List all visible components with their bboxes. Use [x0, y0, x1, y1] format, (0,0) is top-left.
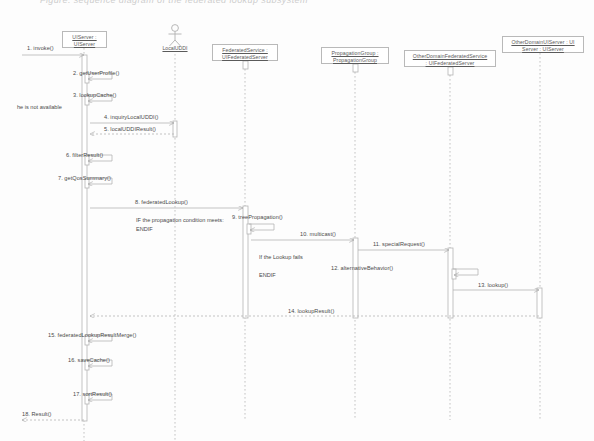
message-label-3[interactable]: 3. lookupCache()	[73, 92, 116, 99]
message-12	[453, 269, 478, 275]
message-arrows-group	[22, 55, 539, 420]
activation-bar-act-otheruiserver	[537, 288, 542, 318]
actor-label-localuddi[interactable]: LocalUDDI	[152, 45, 198, 52]
lifeline-header-line2-propagationgroup: PropagationGroup	[324, 57, 386, 64]
message-self-arrow-12	[453, 269, 478, 275]
lifeline-header-federatedservice[interactable]: FederatedService :UIFederatedServer	[212, 44, 278, 61]
diagram-vector-layer	[0, 0, 594, 441]
lifeline-lines-group	[84, 48, 540, 441]
message-label-16[interactable]: 16. saveCache()	[68, 357, 110, 364]
note-lookup-endif: ENDIF	[259, 271, 276, 279]
activation-bar-act-federated-self	[247, 224, 251, 234]
activation-bars-group	[82, 55, 542, 421]
message-label-6[interactable]: 6. filterResult()	[66, 152, 103, 159]
message-label-12[interactable]: 12. alternativeBehavior()	[331, 265, 393, 272]
message-label-1[interactable]: 1. invoke()	[27, 45, 54, 52]
message-label-7[interactable]: 7. getQosSummary()	[58, 175, 111, 182]
actor-head-icon	[172, 25, 179, 32]
message-label-8[interactable]: 8. federatedLookup()	[135, 199, 188, 206]
lifeline-header-line1-uiserver: UIServer :	[65, 34, 104, 41]
message-9	[249, 224, 274, 230]
message-label-2[interactable]: 2. getUserProfile()	[73, 70, 119, 77]
message-label-9[interactable]: 9. treePropagation()	[232, 214, 283, 221]
message-self-arrow-9	[249, 224, 274, 230]
lifeline-header-otherdomainuiserver[interactable]: OtherDomainUIServer : UIServer : UIServe…	[502, 36, 584, 53]
note-propagation-if: IF the propagation condition meets:	[136, 216, 224, 224]
lifeline-header-otherdomainfederatedservice[interactable]: OtherDomainFederatedService: UIFederated…	[404, 50, 496, 67]
lifeline-header-line1-propagationgroup: PropagationGroup :	[324, 50, 386, 57]
lifeline-header-line1-otherdomainfederatedservice: OtherDomainFederatedService	[407, 53, 493, 60]
message-label-11[interactable]: 11. specialRequest()	[373, 241, 425, 248]
lifeline-header-line2-uiserver: UIServer	[65, 41, 104, 48]
lifeline-header-line2-otherdomainfederatedservice: : UIFederatedServer	[407, 60, 493, 67]
lifeline-header-propagationgroup[interactable]: PropagationGroup :PropagationGroup	[321, 47, 389, 64]
note-propagation-endif: ENDIF	[136, 225, 153, 233]
activation-bar-act-otherfed-self	[452, 269, 456, 279]
activation-bar-act-federated-main	[243, 206, 248, 318]
activation-bar-act-federated-head	[243, 61, 248, 69]
message-label-13[interactable]: 13. lookup()	[478, 282, 508, 289]
note-lookup-fails: If the Lookup fails	[259, 253, 303, 261]
note-not-available: he is not available	[17, 103, 62, 111]
message-label-4[interactable]: 4. inquiryLocalUDDI()	[104, 114, 159, 121]
message-label-5[interactable]: 5. localUDDIResult()	[104, 126, 156, 133]
activation-bar-act-propagation-main	[353, 238, 358, 318]
message-label-17[interactable]: 17. sortResult()	[73, 391, 112, 398]
message-label-10[interactable]: 10. multicast()	[300, 231, 336, 238]
message-label-15[interactable]: 15. federatedLookupResultMerge()	[48, 332, 136, 339]
actor-figure-group	[169, 25, 182, 46]
message-label-18[interactable]: 18. Result()	[22, 411, 52, 418]
activation-bar-act-otherfed-main	[448, 248, 453, 318]
lifeline-header-line1-federatedservice: FederatedService :	[215, 47, 275, 54]
sequence-diagram-canvas: Figure: sequence diagram of the federate…	[0, 0, 594, 441]
activation-bar-act-propagation-head	[353, 64, 358, 72]
lifeline-header-uiserver[interactable]: UIServer :UIServer	[62, 31, 107, 48]
lifeline-header-line1-otherdomainuiserver: OtherDomainUIServer : UI	[505, 39, 581, 46]
activation-bar-act-otherfed-head	[448, 67, 453, 75]
lifeline-header-line2-federatedservice: UIFederatedServer	[215, 54, 275, 61]
lifeline-header-line2-otherdomainuiserver: Server : UIServer	[505, 46, 581, 53]
message-label-14[interactable]: 14. lookupResult()	[288, 308, 334, 315]
